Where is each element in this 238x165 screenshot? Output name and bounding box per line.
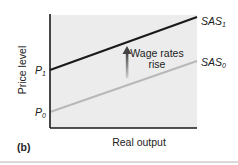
annotation-line2: rise bbox=[149, 58, 166, 70]
sas1-label: SAS1 bbox=[201, 15, 226, 28]
panel-label: (b) bbox=[17, 141, 30, 153]
plot-area bbox=[50, 15, 197, 128]
y-tick-p1: P1 bbox=[35, 64, 46, 77]
sas0-label: SAS0 bbox=[201, 56, 226, 69]
chart: Wage rates rise SAS1 SAS0 P1 P0 Price le… bbox=[0, 0, 238, 165]
y-tick-p0: P0 bbox=[35, 106, 46, 119]
y-axis-label: Price level bbox=[16, 46, 28, 94]
x-axis-label: Real output bbox=[112, 136, 166, 148]
